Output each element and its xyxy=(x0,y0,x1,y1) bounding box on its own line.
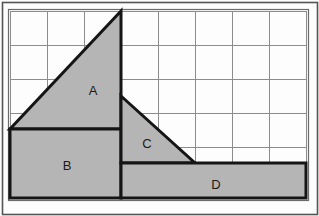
geometry-figure: ABCD xyxy=(0,0,319,216)
shape-label-c: C xyxy=(142,136,151,151)
shape-d: D xyxy=(121,163,306,198)
shape-label-b: B xyxy=(63,158,72,173)
figure-canvas: ABCD xyxy=(0,0,319,216)
shape-label-a: A xyxy=(89,83,98,98)
shape-label-d: D xyxy=(211,177,220,192)
shape-b: B xyxy=(10,129,121,198)
